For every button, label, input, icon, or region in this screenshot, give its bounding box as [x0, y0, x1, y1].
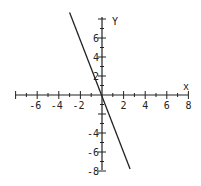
- y-tick-label: -8: [87, 166, 99, 177]
- x-tick-labels: -6-4-22468: [29, 100, 191, 111]
- x-tick-label: -2: [72, 100, 84, 111]
- y-tick-label: -6: [87, 147, 99, 158]
- function-line: [70, 13, 130, 170]
- x-axis-label: x: [183, 81, 189, 92]
- y-tick-label: 6: [93, 33, 99, 44]
- coordinate-plane: -6-4-22468 642-4-6-8 Y x: [0, 0, 201, 186]
- y-tick-label: -4: [87, 128, 99, 139]
- x-tick-label: 4: [142, 100, 148, 111]
- x-tick-label: 8: [185, 100, 191, 111]
- y-axis-label: Y: [112, 16, 118, 27]
- x-tick-label: 6: [164, 100, 170, 111]
- graph-svg: -6-4-22468 642-4-6-8 Y x: [0, 0, 201, 186]
- x-tick-label: -6: [29, 100, 41, 111]
- y-tick-labels: 642-4-6-8: [87, 33, 99, 177]
- y-tick-label: 4: [93, 52, 99, 63]
- x-tick-label: -4: [51, 100, 63, 111]
- x-tick-label: 2: [121, 100, 127, 111]
